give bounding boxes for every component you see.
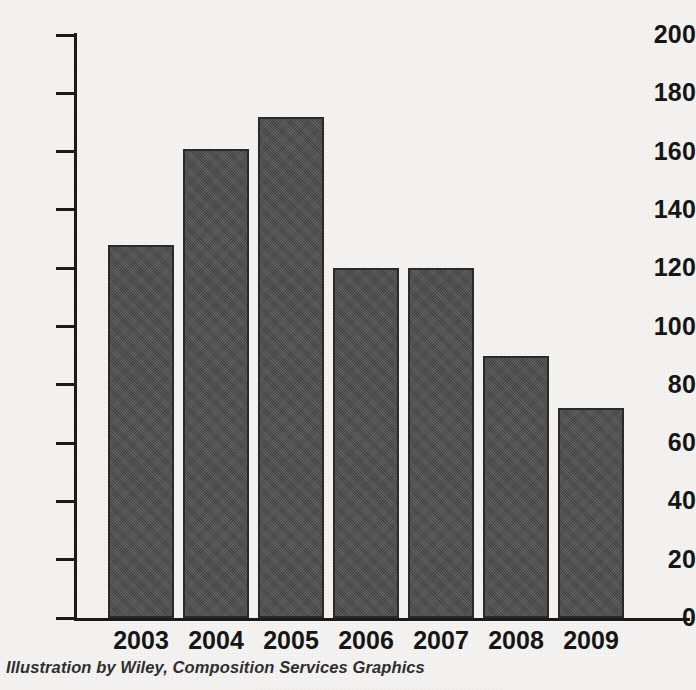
bar-2005: [258, 117, 324, 618]
bars-group: [0, 0, 696, 690]
x-tick-label-2004: 2004: [183, 628, 249, 653]
bar-chart-figure: 020406080100120140160180200 200320042005…: [0, 0, 696, 690]
plot-area: 020406080100120140160180200 200320042005…: [0, 0, 696, 690]
bar-2006: [333, 268, 399, 618]
figure-caption: Illustration by Wiley, Composition Servi…: [6, 658, 425, 677]
x-tick-label-2005: 2005: [258, 628, 324, 653]
bar-2004: [183, 149, 249, 618]
x-tick-label-2003: 2003: [108, 628, 174, 653]
x-tick-label-2007: 2007: [408, 628, 474, 653]
bar-2003: [108, 245, 174, 618]
bar-2008: [483, 356, 549, 618]
bar-2009: [558, 408, 624, 618]
x-tick-label-2008: 2008: [483, 628, 549, 653]
x-tick-label-2006: 2006: [333, 628, 399, 653]
bar-2007: [408, 268, 474, 618]
x-tick-label-2009: 2009: [558, 628, 624, 653]
